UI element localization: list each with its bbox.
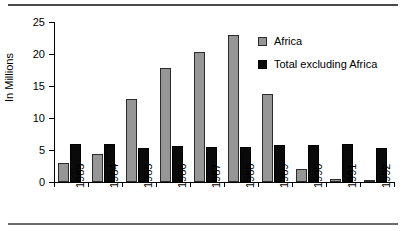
x-tick-label-1984: 1984 [109,164,120,188]
y-tick-label: 10 [0,113,45,124]
bar-africa-1984 [92,154,103,182]
x-tick-label-1988: 1988 [245,164,256,188]
x-tick-mark [122,182,123,187]
x-tick-mark [156,182,157,187]
y-tick-label: 15 [0,81,45,92]
x-tick-label-1992: 1992 [381,164,392,188]
x-tick-label-1985: 1985 [143,164,154,188]
bar-africa-1985 [126,99,137,182]
bar-africa-1986 [160,68,171,182]
x-tick-label-1990: 1990 [313,164,324,188]
legend-label-africa: Africa [274,36,302,47]
legend-swatch-africa [258,37,267,46]
x-tick-mark [88,182,89,187]
x-tick-mark [190,182,191,187]
y-tick-label: 5 [0,145,45,156]
bar-africa-1991 [330,179,341,182]
bar-africa-1987 [194,52,205,182]
legend-item-total-excluding-africa: Total excluding Africa [258,59,377,70]
bar-africa-1988 [228,35,239,182]
y-tick-mark [49,22,54,23]
x-tick-label-1991: 1991 [347,164,358,188]
bar-africa-1992 [364,180,375,182]
y-tick-label: 20 [0,49,45,60]
x-tick-mark [224,182,225,187]
y-tick-mark [49,86,54,87]
x-tick-mark [326,182,327,187]
bar-africa-1990 [296,169,307,182]
legend-label-total-excluding-africa: Total excluding Africa [274,59,377,70]
legend-swatch-total-excluding-africa [258,60,267,69]
y-axis-title: In Millions [4,53,15,102]
y-tick-mark [49,150,54,151]
x-tick-label-1986: 1986 [177,164,188,188]
legend-item-africa: Africa [258,36,377,47]
x-tick-label-1989: 1989 [279,164,290,188]
x-tick-mark [258,182,259,187]
bottom-divider-rule [8,223,398,225]
bar-africa-1983 [58,163,69,182]
x-tick-mark [54,182,55,187]
x-tick-mark [360,182,361,187]
x-tick-mark [394,182,395,187]
chart-legend: Africa Total excluding Africa [258,36,377,82]
bar-africa-1989 [262,94,273,182]
y-tick-label: 25 [0,17,45,28]
y-tick-mark [49,54,54,55]
x-tick-label-1987: 1987 [211,164,222,188]
y-tick-label: 0 [0,177,45,188]
x-tick-mark [292,182,293,187]
top-divider-rule [8,4,398,6]
y-tick-mark [49,118,54,119]
x-tick-label-1983: 1983 [75,164,86,188]
bar-chart-figure: In Millions 0510152025 19831984198519861… [0,0,406,231]
